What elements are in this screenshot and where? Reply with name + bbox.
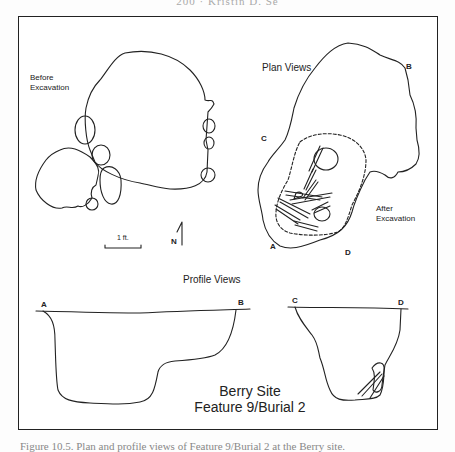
north-arrow-icon xyxy=(177,222,182,245)
point-b-plan: B xyxy=(406,62,412,71)
blob xyxy=(201,168,215,182)
pit-outline-before xyxy=(85,51,214,189)
bone xyxy=(309,146,323,172)
bone xyxy=(278,198,310,218)
figure-caption: Figure 10.5. Plan and profile views of F… xyxy=(20,440,440,452)
point-d-profile: D xyxy=(398,298,404,307)
blob xyxy=(203,119,215,133)
before-label-line2: Excavation xyxy=(30,83,69,93)
after-label-line2: Excavation xyxy=(376,214,415,224)
scale-bar xyxy=(105,245,141,248)
point-b-profile: B xyxy=(238,298,244,307)
point-c-profile: C xyxy=(292,296,298,305)
point-a-profile: A xyxy=(41,300,47,309)
profile-ground-ab xyxy=(36,309,250,313)
after-label-line1: After xyxy=(376,204,393,214)
site-title-line1: Berry Site xyxy=(180,383,320,399)
plan-views-title: Plan Views xyxy=(262,62,311,73)
blob xyxy=(204,137,214,149)
profile-views-title: Profile Views xyxy=(183,274,241,285)
north-label: N xyxy=(171,237,177,246)
profile-ground-cd xyxy=(288,307,408,309)
before-label-line1: Before xyxy=(30,73,54,83)
blob xyxy=(100,167,121,204)
site-title-line2: Feature 9/Burial 2 xyxy=(180,399,320,415)
point-c-plan: C xyxy=(261,134,267,143)
bone xyxy=(294,221,318,231)
point-d-plan: D xyxy=(345,248,351,257)
scale-label: 1 ft. xyxy=(117,233,129,243)
point-a-plan: A xyxy=(270,242,276,251)
